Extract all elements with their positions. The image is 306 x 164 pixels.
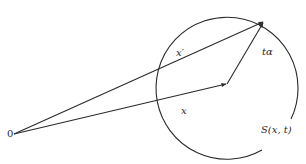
origin-label: 0 <box>7 129 13 139</box>
t-alpha-label: tα <box>262 47 273 57</box>
sphere-label: S(x, t) <box>261 125 292 135</box>
x-prime-label: x′ <box>176 48 184 58</box>
vector-x <box>14 84 226 134</box>
x-label: x <box>181 106 187 116</box>
vector-x-prime <box>14 22 263 134</box>
vector-diagram <box>0 0 306 164</box>
vector-t-alpha <box>227 23 263 84</box>
